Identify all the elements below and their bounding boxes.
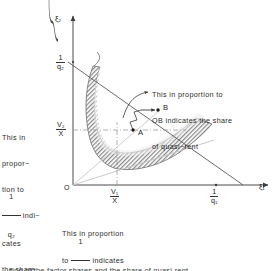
y-intercept-denominator: q₂: [56, 63, 65, 70]
annotation-factor-v2: This in propor− tion to 1 q₂ indi− cates…: [2, 117, 40, 271]
x-intercept-denominator: q₁: [210, 197, 218, 204]
annotation-factor-v2-line-1: This in: [2, 134, 40, 143]
left-frac-numerator: 1: [2, 193, 21, 200]
x-tick-label-v1-over-x: V₁ X: [110, 188, 119, 204]
x-axis-label: ξ₁: [259, 182, 265, 191]
left-frac-denominator: q₂: [2, 231, 21, 238]
y-tick-numerator: V₂: [56, 121, 66, 128]
y-intercept-label: 1 q₂: [56, 54, 65, 70]
annotation-factor-v1: This in proportion to 1 q₁ indicates the…: [62, 213, 124, 271]
annotation-quasi-rent-line-2: OB indicates the share: [152, 117, 232, 126]
x-intercept-label: 1 q₁: [210, 188, 218, 204]
figure-caption-clipped: tion of the factor shares and the share …: [10, 266, 188, 271]
bottom-frac-numerator: 1: [71, 238, 90, 245]
annotation-factor-v2-line-4: 1 q₂ indi−: [2, 212, 40, 221]
point-A-marker: [131, 128, 134, 131]
x-tick-numerator: V₁: [110, 188, 119, 195]
annotation-factor-v1-indicates: indicates: [92, 257, 124, 266]
callout-pointer-quasi-rent: [123, 92, 148, 118]
annotation-factor-v1-to: to: [62, 257, 69, 266]
origin-label: O: [64, 184, 69, 191]
y-axis-label: ξ₂: [55, 14, 61, 23]
point-A-label: A: [138, 128, 143, 137]
annotation-factor-v1-line-2: to 1 q₁ indicates: [62, 256, 124, 266]
annotation-quasi-rent-line-1: This in proportion to: [152, 91, 232, 100]
y-tick-denominator: X: [56, 130, 66, 137]
annotation-factor-v2-indi: indi−: [23, 212, 40, 221]
annotation-quasi-rent-line-3: of quasi−rent: [152, 143, 232, 152]
annotation-factor-v2-line-2: propor−: [2, 160, 40, 169]
fraction-bar: [2, 215, 21, 216]
y-tick-label-v2-over-x: V₂ X: [56, 121, 66, 137]
x-intercept-numerator: 1: [210, 188, 218, 195]
annotation-quasi-rent: This in proportion to OB indicates the s…: [152, 74, 232, 169]
x-tick-denominator: X: [110, 197, 119, 204]
y-intercept-numerator: 1: [56, 54, 65, 61]
curve-top-squiggle: [94, 52, 100, 66]
figure-canvas: ξ₂ ξ₁ O 1 q₂ 1 q₁ V₂ X V₁: [0, 0, 279, 271]
fraction-bar: [71, 260, 90, 261]
